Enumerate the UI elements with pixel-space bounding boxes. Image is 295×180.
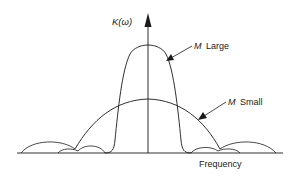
y-axis-label: K(ω) (112, 16, 132, 27)
m-small-label-var: M (228, 97, 236, 107)
x-axis-label: Frequency (199, 159, 242, 169)
axis-arrowhead-icon (145, 13, 152, 27)
m-small-label: M Small (228, 97, 263, 107)
m-small-leader-line (204, 102, 226, 116)
curve-m-large-sidelobe (191, 147, 218, 153)
curve-m-large-sidelobe (218, 149, 240, 153)
m-small-label-word: Small (240, 97, 263, 107)
curve-m-large-sidelobe (58, 149, 78, 153)
curve-m-small (75, 99, 220, 149)
curve-m-large-sidelobe (78, 146, 105, 153)
spectral-window-diagram: K(ω) M Large M Small Frequency (0, 0, 295, 180)
m-large-label-word: Large (206, 41, 229, 51)
m-large-label-var: M (194, 41, 202, 51)
curve-m-small-sidelobe (21, 142, 75, 153)
m-large-leader-line (171, 46, 192, 58)
m-large-label: M Large (194, 41, 229, 51)
curve-m-small-sidelobe (220, 142, 276, 153)
m-small-arrowhead-icon (198, 112, 207, 120)
